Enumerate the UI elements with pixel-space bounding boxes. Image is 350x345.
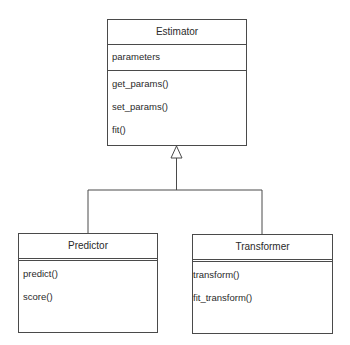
attribute: parameters (112, 51, 160, 62)
method: fit_transform() (193, 292, 252, 303)
class-name: Transformer (193, 235, 332, 259)
method: transform() (193, 269, 239, 280)
methods-section: transform() fit_transform() (193, 259, 332, 331)
class-name: Predictor (19, 234, 157, 258)
methods-section: predict() score() (19, 258, 157, 330)
class-predictor: Predictor predict() score() (18, 233, 158, 333)
class-name: Estimator (108, 20, 246, 44)
class-transformer: Transformer transform() fit_transform() (192, 234, 333, 334)
method: fit() (112, 124, 126, 135)
method: get_params() (112, 78, 169, 89)
generalization-arrowhead-icon (171, 146, 182, 158)
class-estimator: Estimator parameters get_params() set_pa… (107, 19, 247, 146)
methods-section: get_params() set_params() fit() (108, 70, 246, 145)
method: score() (23, 291, 53, 302)
attributes-section: parameters (108, 44, 246, 70)
method: set_params() (112, 101, 168, 112)
method: predict() (23, 268, 58, 279)
